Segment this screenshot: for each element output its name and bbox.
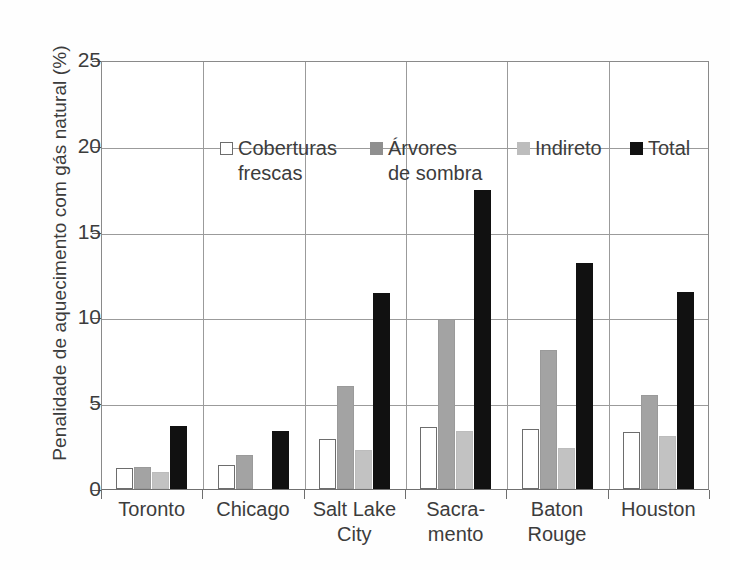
bar [576, 263, 593, 490]
legend-item: Árvores de sombra [370, 136, 483, 186]
bar [438, 319, 455, 489]
bar [641, 395, 658, 489]
bar [623, 432, 640, 489]
gridline [102, 319, 708, 320]
legend-label: Coberturas frescas [238, 136, 337, 186]
y-tick-label: 15 [55, 220, 101, 244]
bar [420, 427, 437, 489]
bar-chart-figure: Penalidade de aquecimento com gás natura… [0, 0, 730, 570]
x-axis-label: Houston [593, 497, 723, 522]
category-separator [305, 62, 306, 489]
bar [337, 386, 354, 489]
y-tick-label: 20 [55, 134, 101, 158]
bar [456, 431, 473, 489]
y-tick-label: 5 [55, 391, 101, 415]
bar [116, 468, 133, 489]
bar [659, 436, 676, 489]
category-separator [203, 62, 204, 489]
legend-label: Árvores de sombra [388, 136, 483, 186]
bar [558, 448, 575, 489]
category-separator [406, 62, 407, 489]
legend-swatch-icon [220, 142, 233, 155]
bar [540, 350, 557, 489]
legend-item: Indireto [517, 136, 602, 161]
category-separator [507, 62, 508, 489]
gridline [102, 405, 708, 406]
legend-swatch-icon [517, 142, 530, 155]
legend-swatch-icon [370, 142, 383, 155]
bar [474, 190, 491, 489]
legend-item: Coberturas frescas [220, 136, 337, 186]
plot-area: Coberturas frescasÁrvores de sombraIndir… [101, 61, 709, 490]
bar [373, 293, 390, 489]
legend-item: Total [630, 136, 690, 161]
bar [218, 465, 235, 489]
bar [134, 467, 151, 489]
bar [272, 431, 289, 489]
legend-label: Indireto [535, 136, 602, 161]
bar [236, 455, 253, 489]
y-tick-label: 25 [55, 48, 101, 72]
gridline [102, 234, 708, 235]
bar [152, 472, 169, 489]
legend-swatch-icon [630, 142, 643, 155]
legend-label: Total [648, 136, 690, 161]
bar [170, 426, 187, 489]
bar [522, 429, 539, 489]
bar [355, 450, 372, 489]
bar [677, 292, 694, 489]
chart-legend: Coberturas frescasÁrvores de sombraIndir… [220, 136, 730, 196]
category-separator [609, 62, 610, 489]
y-tick-label: 10 [55, 305, 101, 329]
bar [319, 439, 336, 489]
